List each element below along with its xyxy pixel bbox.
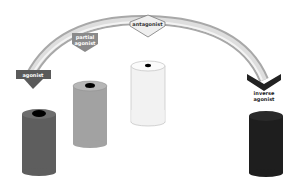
antagonist-label: antagonist xyxy=(132,21,163,28)
agonist-marker: agonist xyxy=(16,70,51,89)
agonist-label: agonist xyxy=(22,72,44,79)
partial-agonist-label-line2: agonist xyxy=(74,40,96,47)
partial-agonist-marker: partial agonist xyxy=(72,33,98,52)
pore-medium xyxy=(85,83,95,88)
receptor-cylinder-basal-activity xyxy=(131,61,165,126)
inverse-agonist-label-line2: agonist xyxy=(253,96,275,103)
pharmacology-spectrum-diagram: agonist partial agonist antagonist inver… xyxy=(0,0,298,184)
pore-large xyxy=(32,110,46,117)
receptor-cylinder-partial-activity xyxy=(73,81,107,148)
receptor-cylinder-no-activity xyxy=(249,111,283,177)
receptor-cylinder-full-activity xyxy=(22,109,56,176)
pore-small xyxy=(145,64,151,67)
